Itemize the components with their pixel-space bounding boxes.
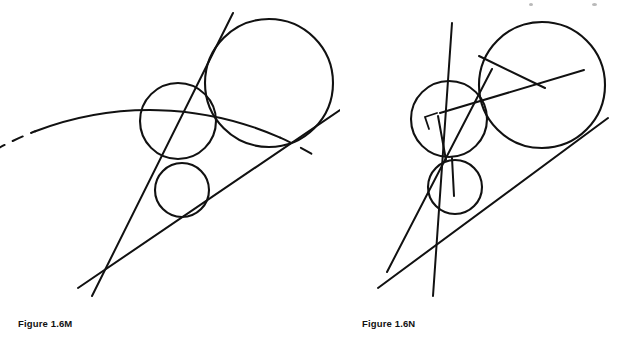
arc-solid-segment xyxy=(35,110,280,138)
scan-speck xyxy=(529,3,533,6)
right-angle-marker xyxy=(425,113,437,129)
figure-panel-n: Figure 1.6N xyxy=(340,0,621,357)
figure-1-6-n-drawing xyxy=(340,0,621,310)
circle-small xyxy=(428,160,482,214)
circle-small xyxy=(155,163,209,217)
tangent-line-shallow xyxy=(78,110,340,288)
scan-speck xyxy=(592,3,597,6)
circle-medium xyxy=(140,83,216,159)
circle-large xyxy=(205,19,333,147)
tangent-line-steep xyxy=(433,23,452,296)
figure-1-6-m-drawing xyxy=(0,0,340,310)
arc-dashed-lead xyxy=(0,131,35,150)
figure-page: Figure 1.6M xyxy=(0,0,621,357)
radius-large-upper xyxy=(479,56,545,88)
radius-large-right xyxy=(440,70,584,113)
circle-large xyxy=(479,22,605,148)
figure-caption-n: Figure 1.6N xyxy=(362,318,415,329)
tangent-line-shallow xyxy=(378,118,608,288)
figure-caption-m: Figure 1.6M xyxy=(18,318,72,329)
circle-medium xyxy=(411,81,487,157)
radius-small xyxy=(452,158,454,196)
figure-panel-m: Figure 1.6M xyxy=(0,0,340,357)
arc-dashed-tail xyxy=(280,138,319,159)
